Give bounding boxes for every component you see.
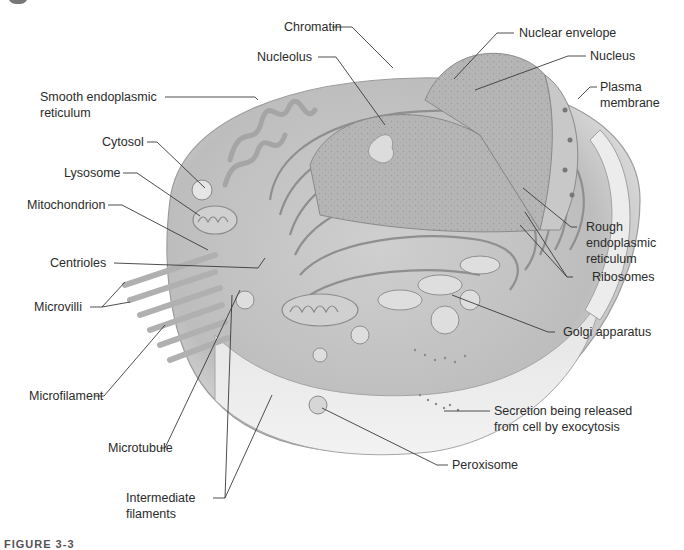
label-nucleus: Nucleus [590,49,635,64]
label-secretion-line2: from cell by exocytosis [494,420,620,435]
label-rough-er-line3: reticulum [586,252,637,267]
lysosome-art [192,180,212,200]
label-peroxisome: Peroxisome [452,458,518,473]
peroxisome-art [309,396,327,414]
label-microvilli: Microvilli [34,300,82,315]
figure-caption: FIGURE 3-3 [4,538,75,550]
label-mitochondrion: Mitochondrion [27,198,106,213]
nucleus-art [310,53,578,232]
label-cytosol: Cytosol [102,135,144,150]
label-rough-er-line1: Rough [586,220,623,235]
label-smooth-er-line2: reticulum [40,106,91,121]
label-nucleolus: Nucleolus [257,50,312,65]
label-microtubule: Microtubule [108,441,173,456]
label-secretion-line1: Secretion being released [494,404,632,419]
label-smooth-er-line1: Smooth endoplasmic [40,90,157,105]
label-intermediate-line1: Intermediate [126,491,195,506]
label-centrioles: Centrioles [50,256,106,271]
label-rough-er-line2: endoplasmic [586,236,656,251]
label-golgi-apparatus: Golgi apparatus [563,325,651,340]
label-intermediate-line2: filaments [126,507,176,522]
label-chromatin: Chromatin [284,20,342,35]
label-ribosomes: Ribosomes [592,270,655,285]
label-microfilament: Microfilament [29,389,103,404]
label-plasma-membrane-line1: Plasma [600,80,642,95]
label-nuclear-envelope: Nuclear envelope [519,26,616,41]
label-lysosome: Lysosome [64,166,121,181]
label-plasma-membrane-line2: membrane [600,96,660,111]
